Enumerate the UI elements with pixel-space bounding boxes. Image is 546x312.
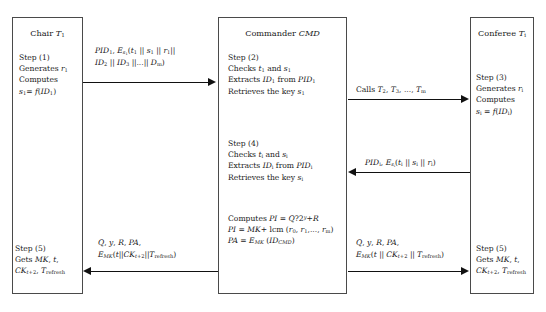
message-label-5: Q, y, R, PA, EMK(t || CKt+2 || Trefresh) xyxy=(356,237,444,262)
commander-step-4-heading: Step (4) xyxy=(228,138,312,149)
conferee-step-3-line-formula: si = f(IDi) xyxy=(476,106,523,117)
message-label-5-line-2: EMK(t || CKt+2 || Trefresh) xyxy=(356,249,444,261)
commander-step-4-line-checks: Checks ti and si xyxy=(228,149,312,160)
message-label-4-line-2: EMK(t||CKt+2||Trefresh) xyxy=(98,249,176,261)
conferee-step-5-heading: Step (5) xyxy=(476,243,526,254)
chair-step-5-block: Step (5) Gets MK, t, CKt+2, Trefresh xyxy=(15,243,65,277)
commander-step-2-block: Step (2) Checks t1 and s1 Extracts ID1 f… xyxy=(228,52,316,97)
message-label-2: Calls T2, T3, ..., Tm xyxy=(356,84,426,96)
commander-step-4-block: Step (4) Checks ti and si Extracts IDi f… xyxy=(228,138,312,183)
conferee-step-3-line-generates: Generates ri xyxy=(476,83,523,94)
party-title-chair: Chair T1 xyxy=(13,29,82,38)
commander-step-2-heading: Step (2) xyxy=(228,52,316,63)
commander-step-4-line-extracts: Extracts IDi from PIDi xyxy=(228,160,312,171)
message-arrow-2-head-icon xyxy=(461,95,469,103)
message-label-3-line-1: PIDi, Esi(ti || si || ri) xyxy=(365,157,436,169)
commander-computation-pi-lcm: PI = MK+ lcm (r0, r1,..., rm) xyxy=(228,224,333,235)
message-label-5-line-1: Q, y, R, PA, xyxy=(356,237,444,249)
commander-step-2-line-extracts: Extracts ID1 from PID1 xyxy=(228,74,316,85)
message-arrow-1-line xyxy=(83,82,210,83)
message-arrow-5-line xyxy=(348,271,462,272)
commander-step-2-line-checks: Checks t1 and s1 xyxy=(228,63,316,74)
protocol-sequence-diagram: Chair T1 Commander CMD Conferee Ti Step … xyxy=(0,0,546,312)
message-label-1-line-2: ID2 || ID3 ||...|| Dm) xyxy=(95,57,175,69)
message-label-1: PID1, Es1(t1 || s1 || r1|| ID2 || ID3 ||… xyxy=(95,45,175,70)
chair-step-1-heading: Step (1) xyxy=(19,52,68,63)
chair-step-1-block: Step (1) Generates r1 Computes s1= f(ID1… xyxy=(19,52,68,97)
party-title-commander: Commander CMD xyxy=(219,29,346,38)
message-label-3: PIDi, Esi(ti || si || ri) xyxy=(365,157,436,169)
conferee-step-5-line-gets: Gets MK, t, xyxy=(476,254,526,265)
commander-computations-block: Computes PI = Q?2y+R PI = MK+ lcm (r0, r… xyxy=(228,213,333,247)
conferee-step-3-line-computes: Computes xyxy=(476,94,523,105)
message-arrow-4-head-icon xyxy=(83,267,91,275)
chair-step-1-line-formula: s1= f(ID1) xyxy=(19,86,68,97)
message-arrow-3-head-icon xyxy=(348,168,356,176)
message-arrow-3-line xyxy=(356,172,470,173)
message-label-4: Q, y, R, PA, EMK(t||CKt+2||Trefresh) xyxy=(98,237,176,262)
conferee-step-5-line-keys: CKt+2, Trefresh xyxy=(476,265,526,276)
chair-step-1-line-generates: Generates r1 xyxy=(19,63,68,74)
party-title-conferee: Conferee Ti xyxy=(471,29,533,38)
chair-step-1-line-computes: Computes xyxy=(19,74,68,85)
conferee-step-3-heading: Step (3) xyxy=(476,72,523,83)
conferee-step-3-block: Step (3) Generates ri Computes si = f(ID… xyxy=(476,72,523,117)
message-arrow-2-line xyxy=(348,99,462,100)
message-arrow-5-head-icon xyxy=(461,267,469,275)
commander-step-4-line-retrieves: Retrieves the key si xyxy=(228,172,312,183)
message-arrow-4-line xyxy=(91,271,218,272)
message-arrow-1-head-icon xyxy=(208,78,216,86)
conferee-step-5-block: Step (5) Gets MK, t, CKt+2, Trefresh xyxy=(476,243,526,277)
commander-computation-pa: PA = EMK (IDCMD) xyxy=(228,235,333,246)
message-label-4-line-1: Q, y, R, PA, xyxy=(98,237,176,249)
commander-step-2-line-retrieves: Retrieves the key s1 xyxy=(228,86,316,97)
chair-step-5-line-keys: CKt+2, Trefresh xyxy=(15,265,65,276)
commander-computation-pi-definition: Computes PI = Q?2y+R xyxy=(228,213,333,224)
chair-step-5-line-gets: Gets MK, t, xyxy=(15,254,65,265)
chair-step-5-heading: Step (5) xyxy=(15,243,65,254)
message-label-1-line-1: PID1, Es1(t1 || s1 || r1|| xyxy=(95,45,175,57)
message-label-2-line-1: Calls T2, T3, ..., Tm xyxy=(356,84,426,96)
